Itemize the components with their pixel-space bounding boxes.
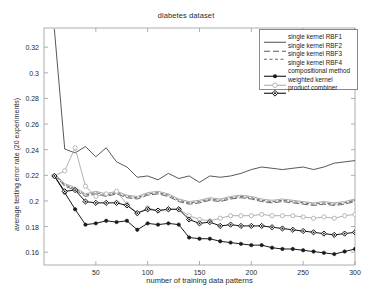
legend-swatch-filled-circle-icon: [263, 67, 287, 76]
x-tick-label: 100: [133, 269, 163, 276]
chart-figure: diabetes dataset 0.160.180.20.220.240.26…: [0, 0, 372, 300]
y-axis-label: average testing error rate (20 experimen…: [13, 98, 20, 231]
legend-item: single kernel RBF3: [263, 50, 354, 59]
x-tick-label: 150: [185, 269, 215, 276]
legend-item: single kernel RBF4: [263, 58, 354, 67]
x-tick-label: 50: [81, 269, 111, 276]
y-tick-label: 0.24: [5, 146, 39, 153]
legend-item: single kernel RBF1: [263, 33, 354, 42]
legend-item: weighted kernel: [263, 75, 354, 84]
legend-label: weighted kernel: [287, 76, 333, 83]
legend-swatch-none-icon: [263, 50, 287, 59]
y-tick-label: 0.2: [5, 197, 39, 204]
legend-label: single kernel RBF2: [287, 42, 342, 49]
y-tick-label: 0.18: [5, 223, 39, 230]
legend-swatch-open-circle-icon: [263, 75, 287, 84]
y-tick-label: 0.26: [5, 121, 39, 128]
legend-item: single kernel RBF2: [263, 41, 354, 50]
x-axis-label: number of training data patterns: [44, 276, 355, 285]
x-tick-label: 250: [288, 269, 318, 276]
x-tick-label: 300: [340, 269, 370, 276]
legend-label: single kernel RBF4: [287, 59, 342, 66]
chart-legend: single kernel RBF1single kernel RBF2sing…: [259, 29, 358, 90]
x-tick-label: 200: [236, 269, 266, 276]
y-tick-label: 0.32: [5, 44, 39, 51]
y-tick-label: 0.16: [5, 249, 39, 256]
y-tick-label: 0.28: [5, 95, 39, 102]
legend-item: product combiner: [263, 84, 354, 93]
legend-swatch-none-icon: [263, 58, 287, 67]
legend-label: compositional method: [287, 67, 350, 74]
legend-label: single kernel RBF3: [287, 50, 342, 57]
legend-label: product combiner: [287, 84, 337, 91]
y-tick-label: 0.3: [5, 69, 39, 76]
y-tick-label: 0.22: [5, 172, 39, 179]
legend-swatch-diamond-icon: [263, 84, 287, 93]
legend-label: single kernel RBF1: [287, 33, 342, 40]
legend-item: compositional method: [263, 67, 354, 76]
legend-swatch-none-icon: [263, 33, 287, 42]
legend-swatch-none-icon: [263, 41, 287, 50]
